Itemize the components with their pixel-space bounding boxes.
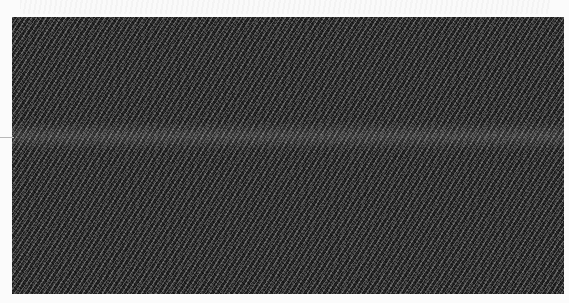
light-band [12,122,564,150]
texture-panel [12,17,564,294]
top-haze [20,0,550,14]
edge-line [0,137,14,138]
